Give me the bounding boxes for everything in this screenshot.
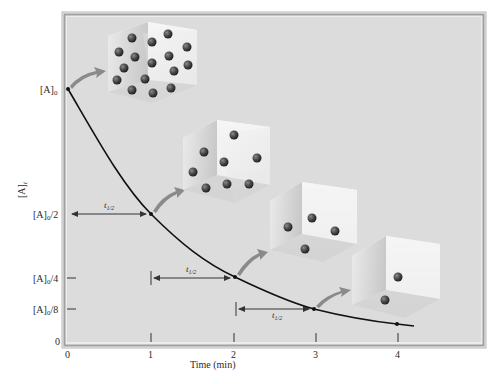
cube-t3 xyxy=(352,236,440,318)
cube-t1 xyxy=(183,120,270,203)
y-tick-a0-eighth: [A]0/8 xyxy=(33,304,58,317)
x-tick-0: 0 xyxy=(65,349,70,360)
x-tick-3: 3 xyxy=(313,349,318,360)
y-axis-labels: [A]0 [A]0/2 [A]0/4 [A]0/8 0 xyxy=(33,84,60,347)
x-tick-1: 1 xyxy=(148,349,153,360)
y-tick-a0-quarter: [A]0/4 xyxy=(33,273,58,286)
x-tick-4: 4 xyxy=(395,349,400,360)
y-tick-a0-half: [A]0/2 xyxy=(33,209,58,222)
y-tick-a0: [A]0 xyxy=(40,84,58,97)
y-tick-zero: 0 xyxy=(55,336,60,347)
cube-t2 xyxy=(270,182,357,262)
first-order-decay-diagram: t1/2 t1/2 t1/2 xyxy=(0,0,496,384)
y-axis-label: [A]t xyxy=(16,181,29,198)
x-axis-label: Time (min) xyxy=(190,359,235,371)
